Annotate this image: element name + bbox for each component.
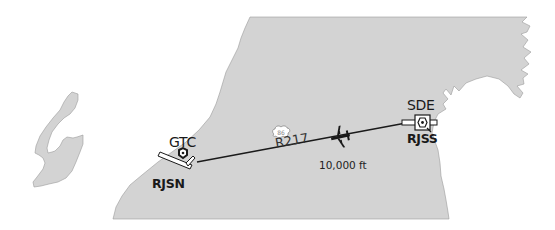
landmass-island [33,92,83,187]
navaid-label-gtc: GTC [169,135,196,149]
airport-label-rjss: RJSS [407,133,438,146]
altitude-label: 10,000 ft [319,160,367,171]
navaid-label-sde: SDE [407,98,435,112]
route-map: 86 [0,0,555,230]
vordme-icon[interactable] [415,115,431,132]
airport-label-rjsn: RJSN [152,178,185,191]
